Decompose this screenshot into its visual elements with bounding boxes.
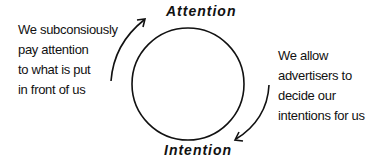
right-note-line: intentions for us: [278, 106, 365, 126]
right-note-line: decide our: [278, 86, 365, 106]
right-note: We allow advertisers to decide our inten…: [278, 46, 365, 126]
intention-label: Intention: [164, 142, 232, 158]
left-note-line: to what is put: [18, 60, 118, 80]
right-note-line: advertisers to: [278, 66, 365, 86]
right-note-line: We allow: [278, 46, 365, 66]
attention-label: Attention: [166, 3, 236, 19]
left-note-line: pay attention: [18, 40, 118, 60]
left-note: We subconsiously pay attention to what i…: [18, 20, 118, 100]
arrow-down-icon: [236, 85, 269, 139]
left-note-line: in front of us: [18, 80, 118, 100]
cycle-circle: [132, 28, 244, 140]
left-note-line: We subconsiously: [18, 20, 118, 40]
